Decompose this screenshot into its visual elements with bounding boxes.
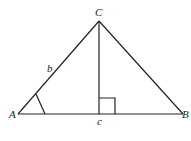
- right-angle-mark: [99, 98, 115, 114]
- side-ac: [18, 21, 99, 114]
- vertex-label-b: B: [182, 108, 189, 120]
- side-bc: [99, 21, 183, 114]
- angle-a-mark: [36, 94, 45, 114]
- triangle-diagram: C A B b c: [0, 0, 191, 141]
- side-label-b: b: [47, 62, 53, 74]
- side-label-c: c: [97, 115, 102, 127]
- vertex-label-a: A: [8, 108, 16, 120]
- vertex-label-c: C: [95, 6, 103, 18]
